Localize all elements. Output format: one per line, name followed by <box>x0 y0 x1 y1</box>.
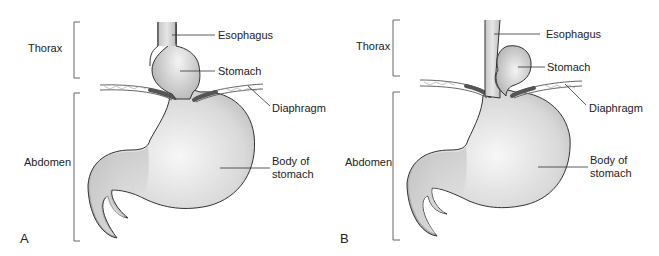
diaphragm-label: Diaphragm <box>272 102 326 114</box>
abdomen-label: Abdomen <box>24 156 71 168</box>
body-label-line2: stomach <box>590 167 632 179</box>
diaphragm-label: Diaphragm <box>589 102 643 114</box>
thorax-label: Thorax <box>356 40 391 52</box>
panel-a-label: A <box>20 231 29 246</box>
esophagus-label: Esophagus <box>218 29 274 41</box>
stomach-label: Stomach <box>218 65 261 77</box>
thorax-label: Thorax <box>28 42 63 54</box>
stomach-label: Stomach <box>547 61 590 73</box>
diaphragm-leader <box>565 84 586 105</box>
body-label-line2: stomach <box>272 168 314 180</box>
esophagus-tube <box>159 22 176 46</box>
thorax-bracket <box>393 20 400 76</box>
abdomen-label: Abdomen <box>345 156 392 168</box>
panel-b-label: B <box>340 231 349 246</box>
panel-b: Thorax Abdomen Esophagus Stomach Diaphra… <box>340 20 643 246</box>
thorax-bracket <box>74 22 80 78</box>
body-label-line1: Body of <box>272 155 310 167</box>
esophagus-label: Esophagus <box>546 28 602 40</box>
hiatal-hernia-diagram: Thorax Abdomen Esophagus Stomach Diaphra… <box>0 0 659 256</box>
abdomen-bracket <box>74 93 80 241</box>
abdomen-bracket <box>393 92 400 240</box>
body-label-line1: Body of <box>590 154 628 166</box>
panel-a: Thorax Abdomen Esophagus Stomach Diaphra… <box>20 22 326 246</box>
